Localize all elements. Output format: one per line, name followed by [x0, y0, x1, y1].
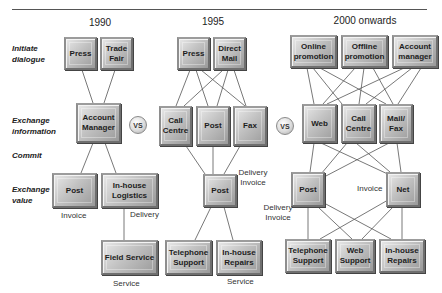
node-2000-net: Net: [386, 172, 420, 207]
node-1990-account-manager: Account Manager: [76, 103, 121, 143]
node-2000-mail-fax: Mail/ Fax: [379, 104, 413, 143]
node-2000-telephone-support: Telephone Support: [285, 239, 331, 273]
node-2000-web: Web: [302, 104, 337, 143]
annotation-1990-delivery: Delivery: [130, 210, 159, 220]
annotation-1995-delivery-invoice: Delivery Invoice: [233, 168, 273, 188]
node-2000-offline-promotion: Offline promotion: [341, 35, 388, 68]
node-1995-press: Press: [177, 37, 210, 70]
node-1990-post: Post: [52, 173, 97, 208]
node-1990-field-service: Field Service: [101, 240, 158, 275]
node-2000-post: Post: [291, 172, 325, 207]
annotation-2000-delivery-invoice: Delivery Invoice: [258, 203, 298, 223]
node-1990-press: Press: [64, 37, 97, 70]
node-2000-account-manager: Account manager: [392, 35, 438, 68]
node-1995-inhouse-repairs: In-house Repairs: [216, 240, 262, 275]
annotation-2000-invoice: Invoice: [357, 184, 382, 194]
annotation-1990-service: Service: [113, 279, 140, 289]
node-1995-call-centre: Call Centre: [159, 106, 192, 146]
node-2000-call-centre: Call Centre: [341, 104, 376, 143]
node-1990-inhouse-logistics: In-house Logistics: [101, 173, 158, 208]
vs-badge-2: VS: [276, 117, 294, 135]
node-2000-online-promotion: Online promotion: [290, 35, 337, 68]
node-1995-fax: Fax: [233, 106, 267, 146]
annotation-1995-service: Service: [227, 277, 254, 287]
node-2000-inhouse-repairs: In-house Repairs: [379, 239, 425, 273]
node-1995-telephone-support: Telephone Support: [165, 240, 212, 275]
node-1995-direct-mail: Direct Mail: [213, 37, 246, 70]
vs-badge-1: VS: [129, 116, 147, 134]
node-1995-post-value: Post: [203, 174, 237, 207]
node-2000-web-support: Web Support: [335, 239, 375, 273]
node-1995-post-info: Post: [196, 106, 230, 146]
annotation-1990-invoice: Invoice: [61, 211, 86, 221]
node-1990-trade-fair: Trade Fair: [100, 37, 133, 70]
